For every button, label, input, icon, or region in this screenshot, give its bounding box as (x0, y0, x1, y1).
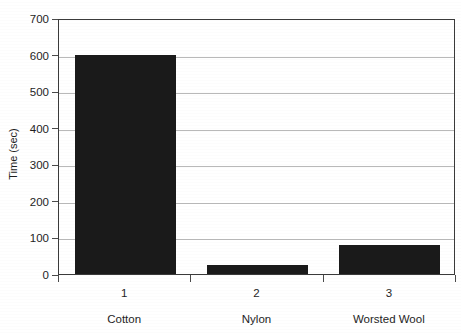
y-tick-700: 700 (0, 13, 58, 25)
x-axis-number-1: 1 (84, 287, 164, 300)
y-tick-0: 0 (0, 269, 58, 281)
plot-area (58, 19, 455, 275)
x-tick-mark (58, 275, 59, 282)
y-tick-label: 400 (30, 123, 49, 135)
x-axis-number-3: 3 (349, 287, 429, 300)
x-axis-category-worsted-wool: Worsted Wool (329, 313, 449, 326)
bar-chart: Time (sec) 0100200300400500600700 1Cotto… (0, 0, 461, 333)
x-axis-number-2: 2 (217, 287, 297, 300)
x-tick-mark (455, 275, 456, 282)
x-tick-mark (190, 275, 191, 282)
bar-worsted-wool (339, 245, 440, 274)
y-tick-label: 100 (30, 232, 49, 244)
x-tick-mark (323, 275, 324, 282)
y-tick-label: 300 (30, 159, 49, 171)
bar-cotton (75, 55, 176, 274)
y-axis-title: Time (sec) (7, 54, 21, 254)
y-tick-label: 600 (30, 50, 49, 62)
y-tick-label: 700 (30, 13, 49, 25)
y-tick-label: 200 (30, 196, 49, 208)
y-tick-label: 500 (30, 86, 49, 98)
y-tick-label: 0 (43, 269, 49, 281)
x-axis-category-cotton: Cotton (64, 313, 184, 326)
x-axis-category-nylon: Nylon (197, 313, 317, 326)
bar-nylon (207, 265, 308, 274)
